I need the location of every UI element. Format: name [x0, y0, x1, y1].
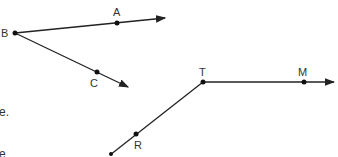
label-m: M: [298, 66, 307, 78]
ray-tr-end: [109, 152, 113, 156]
label-c: C: [90, 77, 98, 89]
ray-tr: [110, 82, 203, 155]
angle-rtm: T M R: [109, 66, 334, 156]
ray-ba: [15, 18, 165, 33]
text-fragment-2: e: [0, 147, 6, 157]
point-r: [134, 132, 139, 137]
label-b: B: [1, 27, 8, 39]
label-t: T: [199, 66, 206, 78]
ray-bc: [15, 33, 128, 87]
angle-abc: B A C: [1, 6, 165, 89]
geometry-figure: B A C T M R e. e: [0, 0, 338, 157]
label-r: R: [134, 139, 142, 151]
label-a: A: [113, 6, 121, 18]
point-a: [115, 21, 120, 26]
text-fragment-1: e.: [0, 105, 9, 119]
point-t: [201, 80, 206, 85]
point-b: [13, 31, 18, 36]
point-m: [302, 80, 307, 85]
point-c: [95, 70, 100, 75]
